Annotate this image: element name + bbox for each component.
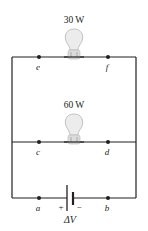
node-f (106, 55, 110, 59)
node-a (37, 196, 41, 200)
lightbulb-icon (65, 29, 82, 59)
node-b (106, 196, 110, 200)
node-d (106, 140, 110, 144)
node-d-label: d (105, 147, 110, 157)
lightbulb-icon (65, 114, 82, 144)
battery-plus-label: + (58, 202, 63, 212)
battery-voltage-label: ΔV (63, 214, 78, 225)
node-a-label: a (36, 203, 41, 213)
bulb-30w: 30 W (64, 15, 85, 59)
circuit-diagram: 30 W 60 W e f c d a b (0, 0, 148, 231)
battery-icon (67, 185, 73, 211)
node-e-label: e (36, 62, 40, 72)
node-b-label: b (105, 203, 110, 213)
bulb-30w-label: 30 W (64, 15, 85, 25)
node-f-label: f (106, 62, 110, 72)
bulb-60w: 60 W (64, 100, 85, 144)
node-c (37, 140, 41, 144)
node-c-label: c (36, 147, 40, 157)
bulb-60w-label: 60 W (64, 100, 85, 110)
node-e (37, 55, 41, 59)
battery-minus-label: − (76, 202, 81, 212)
